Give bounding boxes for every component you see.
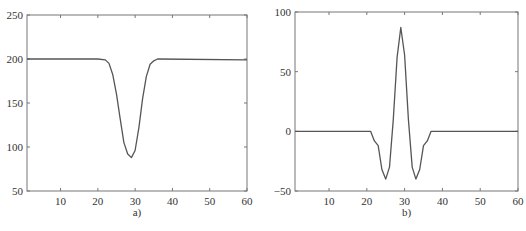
x-tick-label: 50: [204, 195, 216, 207]
x-tick-label: 60: [242, 195, 254, 207]
chart-caption: b): [402, 206, 412, 219]
x-tick-label: 10: [55, 195, 67, 207]
y-tick-label: 150: [7, 97, 24, 109]
y-tick-label: 100: [275, 6, 292, 18]
y-tick-label: 100: [7, 141, 24, 153]
x-tick-label: 40: [437, 195, 449, 207]
x-tick-label: 50: [475, 195, 487, 207]
x-tick-label: 40: [167, 195, 179, 207]
y-tick-label: 0: [286, 125, 292, 137]
data-line: [295, 28, 518, 180]
y-tick-label: −50: [274, 185, 292, 197]
axes-frame: [27, 15, 247, 191]
x-tick-label: 20: [92, 195, 104, 207]
y-tick-label: 250: [7, 9, 24, 21]
axes-frame: [295, 12, 518, 191]
chart-b: 102030405060−50050100b): [274, 6, 524, 219]
x-tick-label: 10: [324, 195, 336, 207]
y-tick-label: 50: [12, 185, 24, 197]
chart-a: 10203040506050100150200250a): [7, 9, 254, 219]
x-tick-label: 20: [361, 195, 373, 207]
chart-caption: a): [133, 206, 142, 219]
x-tick-label: 60: [513, 195, 525, 207]
figure: 10203040506050100150200250a) 10203040506…: [0, 0, 526, 231]
data-line: [27, 59, 247, 158]
y-tick-label: 50: [280, 66, 292, 78]
y-tick-label: 200: [7, 53, 24, 65]
